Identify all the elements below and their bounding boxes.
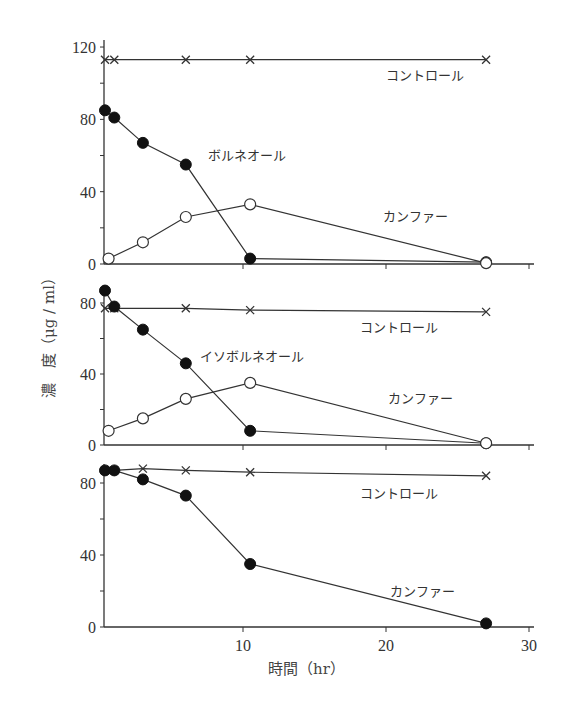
y-tick-label: 80 xyxy=(80,475,96,492)
open-circle-marker-icon xyxy=(245,377,256,388)
filled-circle-marker-icon xyxy=(180,358,191,369)
series-label: カンファー xyxy=(390,584,455,599)
open-circle-marker-icon xyxy=(481,438,492,449)
y-axis-title: 濃 度（μg / ml） xyxy=(40,270,58,398)
panel-3: 04080102030コントロールカンファー xyxy=(80,464,537,654)
series-line xyxy=(105,110,486,262)
open-circle-marker-icon xyxy=(180,211,191,222)
y-tick-label: 80 xyxy=(80,111,96,128)
y-tick-label: 0 xyxy=(88,619,96,636)
series-line xyxy=(105,308,486,312)
filled-circle-marker-icon xyxy=(245,559,256,570)
panel-1: 04080120コントロールボルネオールカンファー xyxy=(72,39,534,273)
filled-circle-marker-icon xyxy=(109,112,120,123)
filled-circle-marker-icon xyxy=(100,105,111,116)
series-label: イソボルネオール xyxy=(200,349,304,364)
series-line xyxy=(105,469,486,476)
y-tick-label: 120 xyxy=(72,39,96,56)
y-tick-label: 0 xyxy=(88,437,96,454)
open-circle-marker-icon xyxy=(180,393,191,404)
filled-circle-marker-icon xyxy=(109,301,120,312)
open-circle-marker-icon xyxy=(137,413,148,424)
y-tick-label: 80 xyxy=(80,295,96,312)
filled-circle-marker-icon xyxy=(109,465,120,476)
y-tick-label: 0 xyxy=(88,256,96,273)
filled-circle-marker-icon xyxy=(137,324,148,335)
series-label: コントロール xyxy=(360,320,438,335)
series-label: カンファー xyxy=(388,391,453,406)
open-circle-marker-icon xyxy=(137,237,148,248)
open-circle-marker-icon xyxy=(103,425,114,436)
x-tick-label: 20 xyxy=(378,637,394,654)
y-tick-label: 40 xyxy=(80,366,96,383)
filled-circle-marker-icon xyxy=(245,425,256,436)
series-line xyxy=(105,291,486,444)
series-label: コントロール xyxy=(360,486,438,501)
panel-2: 04080コントロールイソボルネオールカンファー xyxy=(80,285,534,454)
series-label: カンファー xyxy=(383,209,448,224)
open-circle-marker-icon xyxy=(481,258,492,269)
filled-circle-marker-icon xyxy=(137,137,148,148)
filled-circle-marker-icon xyxy=(245,253,256,264)
y-tick-label: 40 xyxy=(80,184,96,201)
chart-panels: 04080120コントロールボルネオールカンファー04080コントロールイソボル… xyxy=(72,39,537,654)
x-tick-label: 30 xyxy=(521,637,537,654)
chart-svg: 04080120コントロールボルネオールカンファー04080コントロールイソボル… xyxy=(0,0,572,716)
open-circle-marker-icon xyxy=(103,253,114,264)
series-label: コントロール xyxy=(386,68,464,83)
filled-circle-marker-icon xyxy=(137,474,148,485)
filled-circle-marker-icon xyxy=(481,618,492,629)
filled-circle-marker-icon xyxy=(100,285,111,296)
x-tick-label: 10 xyxy=(235,637,251,654)
filled-circle-marker-icon xyxy=(180,490,191,501)
open-circle-marker-icon xyxy=(245,199,256,210)
x-axis-title: 時間（hr） xyxy=(268,660,345,678)
y-tick-label: 40 xyxy=(80,547,96,564)
series-label: ボルネオール xyxy=(208,148,286,163)
filled-circle-marker-icon xyxy=(180,159,191,170)
